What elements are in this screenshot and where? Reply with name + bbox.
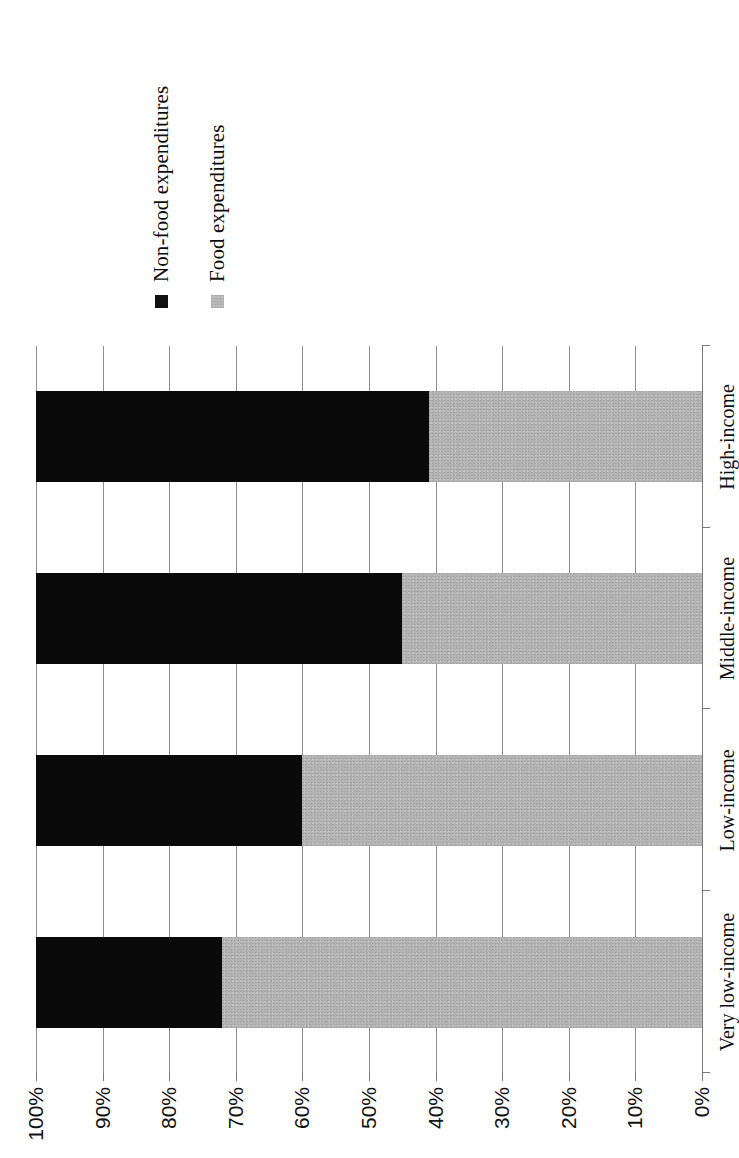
value-axis-label-slot: 10%: [635, 1072, 636, 1073]
value-axis-label: 100%: [24, 1087, 48, 1141]
bar-segment-food: [402, 573, 702, 664]
bar-segment-nonfood: [36, 755, 302, 846]
value-axis-tick: [635, 1073, 636, 1081]
legend-label-nonfood: Non-food expenditures: [149, 86, 174, 282]
value-axis-label: 80%: [157, 1087, 181, 1129]
category-tick: [702, 527, 710, 528]
bar-segment-food: [429, 391, 702, 482]
bar-stack: [36, 391, 702, 482]
value-axis-label-slot: 20%: [569, 1072, 570, 1073]
category-label: Low-income: [716, 749, 739, 851]
value-axis-label-slot: 80%: [169, 1072, 170, 1073]
value-axis-label: 50%: [357, 1087, 381, 1129]
category-label: Middle-income: [716, 557, 739, 680]
legend-item-food: Food expenditures: [206, 8, 228, 308]
value-axis-label: 20%: [557, 1087, 581, 1129]
chart-legend: Non-food expenditures Food expenditures: [150, 8, 262, 308]
bar-stack: [36, 937, 702, 1028]
bar-segment-nonfood: [36, 573, 402, 664]
value-axis-label-slot: 90%: [103, 1072, 104, 1073]
value-axis-tick: [369, 1073, 370, 1081]
bar-segment-nonfood: [36, 937, 222, 1028]
value-axis-label-slot: 100%: [36, 1072, 37, 1073]
category-tick: [702, 1072, 710, 1073]
value-axis-label-slot: 30%: [502, 1072, 503, 1073]
legend-swatch-nonfood-icon: [155, 295, 168, 308]
value-axis-label: 90%: [91, 1087, 115, 1129]
plot-canvas: [36, 346, 702, 1073]
value-axis-tick: [36, 1073, 37, 1081]
value-axis-label: 40%: [424, 1087, 448, 1129]
value-axis-tick: [702, 1073, 703, 1081]
value-axis-label: 30%: [490, 1087, 514, 1129]
category-tick: [702, 345, 710, 346]
bar-segment-food: [222, 937, 702, 1028]
value-axis-label: 60%: [290, 1087, 314, 1129]
value-axis-label: 10%: [623, 1087, 647, 1129]
category-tick: [702, 890, 710, 891]
category-label: High-income: [716, 384, 739, 490]
value-axis-label-slot: 40%: [436, 1072, 437, 1073]
value-axis-label: 70%: [224, 1087, 248, 1129]
plot-area: Very low-incomeLow-incomeMiddle-incomeHi…: [36, 346, 702, 1073]
legend-item-nonfood: Non-food expenditures: [150, 8, 172, 308]
value-axis-label-slot: 60%: [302, 1072, 303, 1073]
value-axis-tick: [502, 1073, 503, 1081]
value-axis-label-slot: 0%: [702, 1072, 703, 1073]
value-axis-label: 0%: [690, 1087, 714, 1117]
value-axis-tick: [569, 1073, 570, 1081]
bar-stack: [36, 573, 702, 664]
bar-segment-nonfood: [36, 391, 429, 482]
value-axis-label-slot: 70%: [236, 1072, 237, 1073]
value-axis-tick: [302, 1073, 303, 1081]
legend-swatch-food-icon: [211, 295, 224, 308]
category-label: Very low-income: [716, 913, 739, 1051]
value-axis-tick: [436, 1073, 437, 1081]
value-axis-tick: [103, 1073, 104, 1081]
bar-stack: [36, 755, 702, 846]
value-axis-tick: [169, 1073, 170, 1081]
value-axis-label-slot: 50%: [369, 1072, 370, 1073]
category-tick: [702, 709, 710, 710]
legend-label-food: Food expenditures: [205, 125, 230, 282]
bar-segment-food: [302, 755, 702, 846]
value-axis-tick: [236, 1073, 237, 1081]
category-axis-line: [702, 346, 703, 1073]
